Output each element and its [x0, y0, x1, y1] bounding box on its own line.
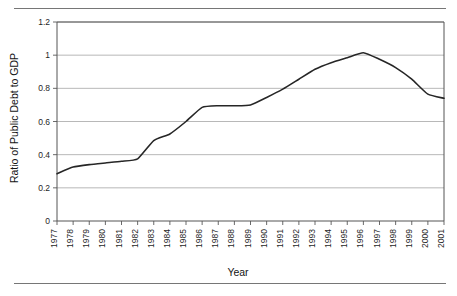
x-tick-label: 1987	[210, 229, 220, 248]
x-tick-label: 2001	[436, 229, 446, 248]
x-tick-label: 1977	[49, 229, 59, 248]
x-tick-label: 1991	[275, 229, 285, 248]
top-horizontal-rule	[14, 8, 446, 9]
x-tick-label: 1999	[404, 229, 414, 248]
x-tick-label: 1994	[323, 229, 333, 248]
x-tick-label: 1982	[130, 229, 140, 248]
x-tick-label: 1980	[97, 229, 107, 248]
x-tick-label: 1993	[307, 229, 317, 248]
x-tick-label: 1995	[339, 229, 349, 248]
x-tick-label: 1984	[162, 229, 172, 248]
chart-svg: 00.20.40.60.811.2 1977197819791980198119…	[0, 10, 457, 282]
x-tick-label: 1992	[291, 229, 301, 248]
x-axis-title: Year	[227, 266, 249, 278]
y-axis-title: Ratio of Public Debt to GDP	[8, 53, 20, 183]
x-tick-label: 1996	[355, 229, 365, 248]
bottom-horizontal-rule	[14, 283, 446, 284]
x-tick-labels-group: 1977197819791980198119821983198419851986…	[49, 229, 446, 248]
x-tick-label: 1998	[388, 229, 398, 248]
x-tick-label: 1981	[114, 229, 124, 248]
y-tick-labels-group: 00.20.40.60.811.2	[38, 17, 50, 226]
y-tick-label: 0.6	[38, 117, 50, 127]
x-tick-label: 1990	[259, 229, 269, 248]
x-tick-label: 2000	[420, 229, 430, 248]
x-tick-label: 1989	[243, 229, 253, 248]
x-tick-label: 1983	[146, 229, 156, 248]
y-tick-label: 0.2	[38, 183, 50, 193]
y-tick-label: 1	[45, 50, 50, 60]
y-tick-label: 1.2	[38, 17, 50, 27]
x-tick-label: 1997	[372, 229, 382, 248]
figure-container: 00.20.40.60.811.2 1977197819791980198119…	[0, 0, 457, 296]
line-chart: 00.20.40.60.811.2 1977197819791980198119…	[0, 10, 457, 282]
x-tick-label: 1978	[65, 229, 75, 248]
x-tick-marks-group	[57, 221, 444, 225]
y-tick-label: 0.8	[38, 83, 50, 93]
x-tick-label: 1986	[194, 229, 204, 248]
y-tick-label: 0.4	[38, 150, 50, 160]
x-tick-label: 1985	[178, 229, 188, 248]
x-tick-label: 1979	[81, 229, 91, 248]
y-tick-label: 0	[45, 216, 50, 226]
y-tick-marks-group	[53, 22, 57, 221]
data-series-line	[57, 53, 444, 174]
x-tick-label: 1988	[226, 229, 236, 248]
